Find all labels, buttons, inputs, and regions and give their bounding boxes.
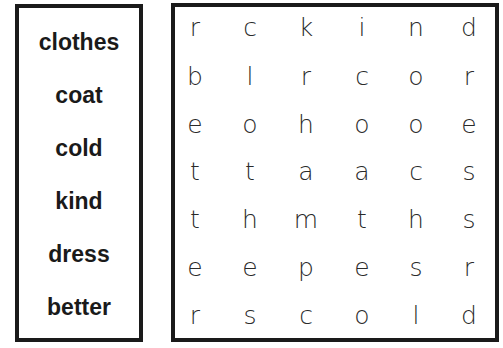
- grid-cell: l: [230, 57, 270, 97]
- grid-cell: p: [286, 248, 326, 288]
- grid-cell: k: [286, 8, 326, 48]
- grid-cell: b: [175, 57, 215, 97]
- grid-cell: s: [449, 200, 489, 240]
- grid-cell: e: [175, 248, 215, 288]
- grid-cell: c: [396, 152, 436, 192]
- grid-cell: t: [342, 200, 382, 240]
- grid-cell: o: [342, 105, 382, 145]
- grid-cell: a: [286, 152, 326, 192]
- grid-cell: d: [449, 8, 489, 48]
- grid-cell: s: [230, 296, 270, 336]
- word-kind: kind: [19, 187, 139, 215]
- grid-cell: r: [175, 296, 215, 336]
- word-coat: coat: [19, 81, 139, 109]
- grid-cell: t: [175, 152, 215, 192]
- grid-cell: e: [175, 105, 215, 145]
- grid-cell: m: [286, 200, 326, 240]
- word-clothes: clothes: [19, 28, 139, 56]
- grid-cell: r: [449, 248, 489, 288]
- grid-cell: c: [342, 57, 382, 97]
- grid-cell: o: [230, 105, 270, 145]
- grid-cell: r: [286, 57, 326, 97]
- grid-cell: o: [342, 296, 382, 336]
- grid-cell: r: [175, 8, 215, 48]
- grid-cell: d: [449, 296, 489, 336]
- grid-cell: n: [396, 8, 436, 48]
- word-search-grid: rckindblrcoreohooettaacsthmthseepesrrsco…: [171, 3, 499, 342]
- grid-cell: h: [230, 200, 270, 240]
- grid-cell: c: [286, 296, 326, 336]
- grid-cell: s: [396, 248, 436, 288]
- grid-cell: r: [449, 57, 489, 97]
- word-better: better: [19, 293, 139, 321]
- grid-cell: h: [286, 105, 326, 145]
- grid-cell: o: [396, 57, 436, 97]
- grid-cell: s: [449, 152, 489, 192]
- grid-cell: h: [396, 200, 436, 240]
- grid-cell: t: [175, 200, 215, 240]
- grid-cell: c: [230, 8, 270, 48]
- word-list-box: clothes coat cold kind dress better: [15, 4, 143, 342]
- word-dress: dress: [19, 240, 139, 268]
- grid-cell: e: [342, 248, 382, 288]
- word-cold: cold: [19, 134, 139, 162]
- grid-cell: t: [230, 152, 270, 192]
- grid-cell: a: [342, 152, 382, 192]
- grid-cell: e: [230, 248, 270, 288]
- grid-cell: l: [396, 296, 436, 336]
- grid-cell: o: [396, 105, 436, 145]
- grid-cell: e: [449, 105, 489, 145]
- grid-cell: i: [342, 8, 382, 48]
